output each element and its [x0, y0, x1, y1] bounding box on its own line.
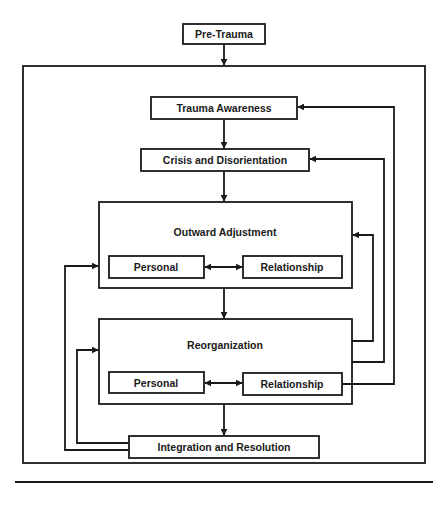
crisis-label: Crisis and Disorientation — [163, 154, 287, 166]
reorg-relationship-label: Relationship — [260, 378, 323, 390]
trauma-awareness-label: Trauma Awareness — [176, 102, 271, 114]
feedback-reorg-to-outward — [352, 235, 373, 341]
integration-label: Integration and Resolution — [158, 441, 291, 453]
feedback-integration-to-outward — [65, 266, 129, 450]
trauma-process-diagram: Pre-Trauma Trauma Awareness Crisis and D… — [0, 0, 445, 515]
pre-trauma-label: Pre-Trauma — [195, 28, 253, 40]
reorg-personal-label: Personal — [134, 377, 178, 389]
outward-adjustment-box — [99, 202, 352, 288]
outward-personal-label: Personal — [134, 261, 178, 273]
outward-relationship-label: Relationship — [260, 261, 323, 273]
reorganization-label: Reorganization — [187, 339, 263, 351]
outward-adjustment-label: Outward Adjustment — [174, 226, 277, 238]
feedback-reorg-to-awareness — [298, 107, 394, 384]
feedback-integration-to-reorg — [77, 350, 129, 443]
reorganization-box — [99, 319, 352, 404]
